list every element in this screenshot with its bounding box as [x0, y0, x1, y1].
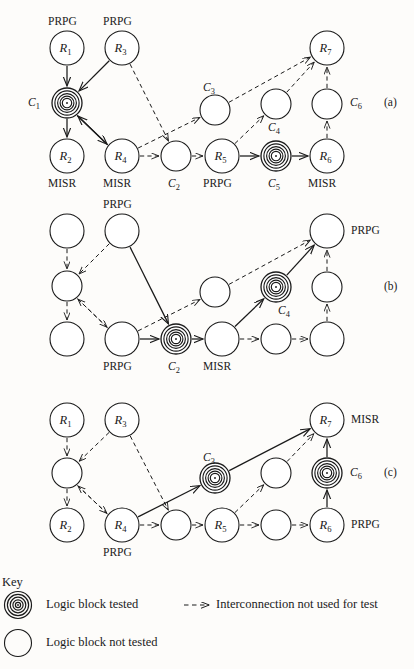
edge-b-R3-to-C2	[130, 247, 168, 324]
node-a-R2[interactable]: R2	[50, 139, 84, 173]
node-circle	[205, 322, 239, 356]
node-b-R3[interactable]	[105, 214, 139, 248]
node-label-sub: 3	[122, 419, 126, 429]
node-a-C5[interactable]	[261, 141, 291, 171]
node-circle	[310, 214, 344, 248]
label-a-panel-id-a: (a)	[384, 97, 397, 109]
node-a-C6[interactable]	[312, 89, 342, 119]
node-label-sub: 6	[327, 524, 332, 534]
node-label-sub: 1	[67, 419, 71, 429]
node-b-C6[interactable]	[312, 272, 342, 302]
node-c-R5[interactable]: R5	[205, 508, 239, 542]
node-a-R1[interactable]: R1	[50, 31, 84, 65]
node-label-sub: 7	[327, 419, 332, 429]
node-a-C4[interactable]	[261, 89, 291, 119]
node-a-R3[interactable]: R3	[105, 31, 139, 65]
node-c-R2[interactable]: R2	[50, 508, 84, 542]
node-circle	[50, 322, 84, 356]
node-circle	[261, 510, 291, 540]
edge-a-C4-to-R7	[287, 62, 314, 92]
label-a-c2-label: C2	[168, 178, 180, 193]
node-c-R6[interactable]: R6	[310, 508, 344, 542]
label-subscript: 1	[36, 102, 40, 111]
node-a-C2[interactable]	[161, 141, 191, 171]
edge-c-R5-to-C4	[235, 485, 264, 513]
node-b-C2[interactable]	[161, 324, 191, 354]
node-circle	[200, 95, 230, 125]
node-c-R1[interactable]: R1	[50, 403, 84, 437]
node-b-R6[interactable]	[310, 322, 344, 356]
node-circle	[261, 324, 291, 354]
edge-a-R4-to-C1	[78, 116, 108, 145]
label-a-c4-label: C4	[268, 122, 280, 137]
node-circle	[105, 214, 139, 248]
node-label-sub: 5	[222, 524, 226, 534]
edge-a-R3-to-C2	[130, 64, 168, 141]
node-circle	[105, 322, 139, 356]
figure-root: R1R3R7R2R4R5R6R1R3R7R2R4R5R6 Key Logic b…	[0, 0, 414, 669]
node-b-C1[interactable]	[52, 271, 82, 301]
node-label-sub: 2	[67, 524, 71, 534]
ring-core	[275, 155, 277, 157]
node-c-C3[interactable]	[200, 463, 230, 493]
edge-c-C1-to-R4	[77, 485, 106, 513]
node-c-C2[interactable]	[161, 510, 191, 540]
node-a-R4[interactable]: R4	[105, 139, 139, 173]
node-b-R4[interactable]	[105, 322, 139, 356]
node-a-C1[interactable]	[52, 88, 82, 118]
label-b-prpg-r7: PRPG	[351, 225, 380, 237]
nodes-layer: R1R3R7R2R4R5R6R1R3R7R2R4R5R6	[50, 31, 344, 542]
node-c-R4[interactable]: R4	[105, 508, 139, 542]
edge-c-R3-to-C2	[130, 436, 168, 510]
node-a-C3[interactable]	[200, 95, 230, 125]
node-c-C5[interactable]	[261, 510, 291, 540]
key-title: Key	[2, 576, 23, 589]
node-label-sub: 1	[67, 47, 71, 57]
node-label-sub: 4	[122, 524, 127, 534]
key-item-not-tested-label: Logic block not tested	[46, 636, 157, 649]
label-c-panel-id-c: (c)	[384, 467, 397, 479]
label-b-prpg-r3: PRPG	[103, 199, 132, 211]
label-a-c6-label: C6	[350, 97, 362, 112]
tested-circle-icon	[5, 592, 32, 619]
label-b-misr-r5: MISR	[203, 361, 231, 373]
node-circle	[200, 277, 230, 307]
node-a-R7[interactable]: R7	[310, 31, 344, 65]
label-b-c2-label: C2	[168, 361, 180, 376]
label-a-c5-label: C5	[268, 178, 280, 193]
node-c-C6[interactable]	[312, 458, 342, 488]
node-b-C4[interactable]	[261, 272, 291, 302]
node-b-R7[interactable]	[310, 214, 344, 248]
node-a-R6[interactable]: R6	[310, 139, 344, 173]
node-label-sub: 5	[222, 155, 226, 165]
node-c-C4[interactable]	[261, 458, 291, 488]
label-a-misr-r2: MISR	[48, 178, 76, 190]
key-item-tested-label: Logic block tested	[46, 598, 138, 611]
node-a-R5[interactable]: R5	[205, 139, 239, 173]
edge-c-R4-to-C1	[78, 486, 107, 514]
node-b-C5[interactable]	[261, 324, 291, 354]
label-a-c3-label: C3	[203, 82, 215, 97]
label-a-misr-r4: MISR	[103, 178, 131, 190]
node-c-C1[interactable]	[52, 458, 82, 488]
node-c-R7[interactable]: R7	[310, 403, 344, 437]
node-b-R5[interactable]	[205, 322, 239, 356]
node-circle	[161, 141, 191, 171]
edge-c-R3-to-C1	[79, 432, 109, 461]
edge-b-C1-to-R4	[77, 298, 107, 327]
node-circle	[52, 458, 82, 488]
label-a-prpg-r3: PRPG	[103, 16, 132, 28]
label-a-prpg-r1: PRPG	[48, 16, 77, 28]
plain-circle-icon	[5, 630, 32, 657]
node-b-R2[interactable]	[50, 322, 84, 356]
label-subscript: 4	[286, 310, 290, 319]
label-subscript: 3	[211, 457, 215, 466]
label-subscript: 6	[358, 102, 362, 111]
node-b-C3[interactable]	[200, 277, 230, 307]
label-c-c3-label: C3	[203, 452, 215, 467]
node-b-R1[interactable]	[50, 214, 84, 248]
node-c-R3[interactable]: R3	[105, 403, 139, 437]
edge-b-R3-to-C1	[79, 244, 109, 274]
label-c-c6-label: C6	[350, 467, 362, 482]
label-a-prpg-r5: PRPG	[203, 178, 232, 190]
